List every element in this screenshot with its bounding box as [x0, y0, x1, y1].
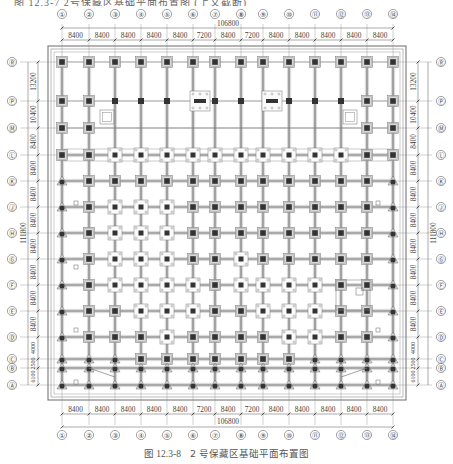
column [238, 178, 244, 184]
column [313, 335, 318, 340]
column-axis-bottom-label: ③ [112, 432, 118, 439]
row-axis-right-label: Ⓚ [438, 178, 445, 185]
dim-total-left: 111800 [19, 222, 28, 244]
dim-spacing: 6100 [410, 371, 416, 383]
column [165, 309, 170, 314]
column [260, 230, 266, 236]
column [138, 334, 144, 340]
axis-grid [20, 24, 432, 425]
column [390, 283, 395, 288]
column-axis-top-label: ③ [112, 11, 118, 18]
column [338, 204, 344, 210]
column [364, 383, 369, 388]
row-axis-right-label: Ⓜ [438, 125, 445, 132]
column [286, 230, 292, 236]
small-opening [376, 201, 380, 205]
column [190, 334, 196, 340]
dim-spacing: 2500 [410, 358, 416, 370]
column [260, 334, 266, 340]
dim-spacing: 8400 [409, 316, 418, 331]
column [313, 153, 318, 158]
column [390, 179, 395, 184]
column [164, 98, 170, 104]
column [260, 204, 266, 210]
column [212, 366, 217, 371]
column [113, 153, 118, 158]
column [86, 204, 92, 210]
column [238, 308, 244, 314]
dim-spacing: 8400 [373, 31, 388, 40]
column [112, 334, 118, 340]
column [190, 230, 196, 236]
column [390, 257, 395, 262]
column [364, 152, 370, 158]
row-axis-left-label: Ⓑ [9, 365, 16, 372]
column-axis-top-label: ⑫ [338, 11, 345, 18]
dim-spacing: 8400 [409, 186, 418, 201]
column [112, 98, 118, 104]
ramp-line-left [89, 368, 115, 377]
column [312, 383, 317, 388]
figure-caption: 图 12.3-8 2 号保藏区基础平面布置图 [0, 446, 453, 460]
column-axis-top-label: ⑥ [190, 11, 196, 18]
dim-spacing: 8400 [221, 405, 236, 414]
column [59, 231, 64, 236]
column [86, 178, 92, 184]
column [390, 383, 395, 388]
column [190, 59, 196, 65]
column [338, 256, 344, 262]
column [212, 256, 218, 262]
column [260, 178, 266, 184]
column [238, 204, 244, 210]
column-axis-bottom-label: ④ [138, 432, 144, 439]
dim-spacing: 8400 [173, 405, 188, 414]
column-axis-top-label: ⑧ [238, 11, 244, 18]
column [261, 153, 266, 158]
column [312, 178, 318, 184]
column [164, 383, 169, 388]
column-axis-bottom-label: ⑬ [364, 432, 371, 439]
dim-spacing: 8400 [373, 405, 388, 414]
equipment-pit [100, 110, 114, 124]
row-axis-right-label: Ⓐ [438, 382, 445, 389]
column-pair [194, 99, 206, 103]
column [238, 366, 243, 371]
dim-spacing: 8400 [29, 316, 38, 331]
column [138, 59, 144, 65]
column [238, 59, 244, 65]
column [286, 356, 292, 362]
column [390, 98, 396, 104]
row-axis-right-label: Ⓒ [438, 356, 445, 363]
column [212, 178, 218, 184]
row-axis-left-label: Ⓕ [9, 282, 16, 289]
equipment-pit [343, 110, 357, 124]
dim-spacing: 7200 [245, 405, 260, 414]
column [191, 309, 196, 314]
column [312, 59, 318, 65]
row-axis-left-label: Ⓟ [9, 98, 16, 105]
equipment-pit-inner [103, 113, 112, 122]
dim-spacing: 8400 [347, 31, 362, 40]
column [112, 59, 118, 65]
row-axis-left-label: Ⓔ [9, 308, 16, 315]
dim-spacing: 8400 [68, 405, 83, 414]
column [86, 125, 92, 131]
column [138, 178, 144, 184]
column [260, 256, 266, 262]
column [190, 366, 195, 371]
column [260, 366, 265, 371]
column [364, 256, 370, 262]
column [260, 356, 266, 362]
column [390, 357, 395, 362]
column [59, 357, 64, 362]
column [338, 178, 344, 184]
column [238, 383, 243, 388]
row-axis-left-label: Ⓐ [9, 382, 16, 389]
column [239, 283, 244, 288]
column [390, 59, 396, 65]
column-axis-bottom-label: ⑤ [164, 432, 170, 439]
column [59, 283, 64, 288]
column [113, 257, 118, 262]
column [165, 231, 170, 236]
column-axis-bottom-label: ⑥ [190, 432, 196, 439]
